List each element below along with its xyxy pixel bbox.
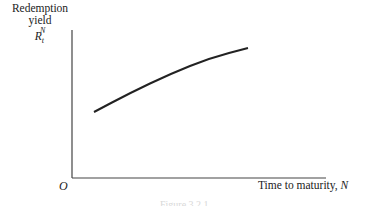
y-label-line1: Redemption	[12, 2, 68, 14]
figure-caption: Figure 3.2.1	[160, 199, 209, 206]
y-label-symbol: RtN	[0, 27, 80, 47]
y-label-line2: yield	[29, 14, 52, 26]
x-axis-label: Time to maturity, N	[258, 179, 348, 191]
yield-curve	[94, 48, 248, 112]
y-axis-label: Redemption yield RtN	[0, 2, 80, 47]
origin-label: O	[59, 179, 68, 194]
